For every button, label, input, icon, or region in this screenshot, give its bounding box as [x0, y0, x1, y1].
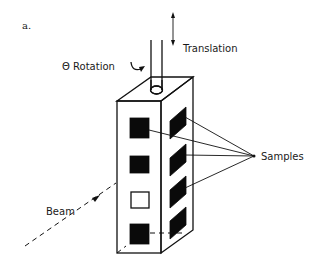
side-sample-3 — [170, 176, 186, 208]
rotation-label: Θ Rotation — [62, 61, 115, 72]
panel-label: a. — [22, 20, 31, 31]
side-sample-4 — [170, 207, 186, 239]
beam-arrow-icon — [92, 195, 100, 202]
samples-pointer-lines — [149, 117, 256, 188]
translation-label: Translation — [182, 43, 238, 54]
translation-arrow-icon — [171, 12, 175, 46]
beam-path-bottom — [117, 246, 126, 253]
front-sample-4 — [130, 224, 149, 244]
front-sample-1 — [130, 118, 149, 138]
box-top-face — [117, 77, 193, 101]
side-sample-2 — [170, 144, 186, 176]
samples-label: Samples — [261, 151, 304, 162]
beam-label: Beam — [46, 206, 75, 217]
sample-holder-diagram: a. Translation Θ Rotation — [0, 0, 314, 272]
side-sample-1 — [170, 107, 186, 139]
front-sample-3-empty — [131, 192, 149, 208]
rotation-arrow-icon — [131, 62, 145, 72]
front-sample-2 — [130, 156, 149, 173]
